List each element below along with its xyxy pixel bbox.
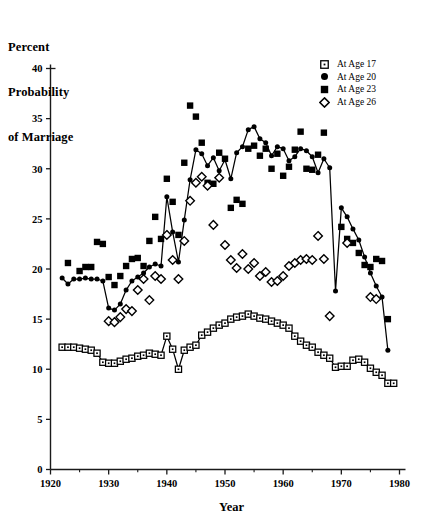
data-point-circle bbox=[333, 289, 338, 294]
data-point-circle bbox=[234, 150, 239, 155]
data-point-square bbox=[111, 282, 117, 288]
data-point-diamond bbox=[133, 286, 142, 295]
data-point-center-dot bbox=[90, 349, 92, 351]
data-point-center-dot bbox=[364, 361, 366, 363]
data-point-center-dot bbox=[149, 352, 151, 354]
legend-item-age-20: At Age 20 bbox=[316, 71, 376, 84]
data-point-circle bbox=[60, 276, 65, 281]
chart-legend: At Age 17 At Age 20 At Age 23 At Age 26 bbox=[316, 58, 376, 108]
data-point-square bbox=[152, 214, 158, 220]
data-point-center-dot bbox=[218, 324, 220, 326]
data-point-diamond bbox=[250, 259, 259, 268]
data-point-center-dot bbox=[242, 315, 244, 317]
data-point-center-dot bbox=[125, 358, 127, 360]
data-point-circle bbox=[281, 146, 286, 151]
data-point-circle bbox=[118, 302, 123, 307]
data-point-diamond bbox=[145, 296, 154, 305]
data-point-circle bbox=[316, 170, 321, 175]
data-point-circle bbox=[83, 276, 88, 281]
legend-label-age-20: At Age 20 bbox=[332, 71, 376, 84]
data-point-square bbox=[228, 205, 234, 211]
data-point-circle bbox=[95, 277, 100, 282]
data-point-center-dot bbox=[102, 361, 104, 363]
data-point-center-dot bbox=[213, 327, 215, 329]
data-point-square bbox=[76, 268, 82, 274]
data-point-square bbox=[129, 256, 135, 262]
data-point-center-dot bbox=[265, 318, 267, 320]
data-point-center-dot bbox=[329, 357, 331, 359]
data-point-square bbox=[65, 260, 71, 266]
data-point-square bbox=[309, 167, 315, 173]
data-point-center-dot bbox=[306, 344, 308, 346]
data-point-square bbox=[303, 166, 309, 172]
data-point-circle bbox=[65, 282, 70, 287]
data-point-square bbox=[367, 264, 373, 270]
data-point-circle bbox=[71, 277, 76, 282]
data-point-square bbox=[356, 250, 362, 256]
data-point-diamond bbox=[139, 275, 148, 284]
data-point-center-dot bbox=[207, 331, 209, 333]
data-point-circle bbox=[89, 277, 94, 282]
data-point-center-dot bbox=[236, 316, 238, 318]
x-tick-label: 1920 bbox=[40, 478, 61, 489]
data-point-center-dot bbox=[370, 367, 372, 369]
data-point-circle bbox=[327, 165, 332, 170]
data-point-center-dot bbox=[230, 318, 232, 320]
data-point-center-dot bbox=[375, 371, 377, 373]
legend-item-age-23: At Age 23 bbox=[316, 83, 376, 96]
data-point-square bbox=[297, 128, 303, 134]
data-point-center-dot bbox=[108, 362, 110, 364]
data-point-square bbox=[280, 173, 286, 179]
data-point-square bbox=[257, 153, 263, 159]
data-point-circle bbox=[246, 127, 251, 132]
data-point-square bbox=[268, 166, 274, 172]
data-point-center-dot bbox=[195, 344, 197, 346]
legend-label-age-17: At Age 17 bbox=[332, 58, 376, 71]
data-point-circle bbox=[257, 136, 262, 141]
data-point-circle bbox=[112, 308, 117, 313]
data-point-center-dot bbox=[160, 354, 162, 356]
data-point-center-dot bbox=[114, 362, 116, 364]
data-point-center-dot bbox=[189, 346, 191, 348]
data-point-circle bbox=[345, 214, 350, 219]
data-point-circle bbox=[153, 261, 158, 266]
data-point-center-dot bbox=[271, 320, 273, 322]
data-point-square bbox=[181, 160, 187, 166]
legend-label-age-26: At Age 26 bbox=[332, 96, 376, 109]
data-point-square bbox=[146, 238, 152, 244]
data-point-square bbox=[193, 113, 199, 119]
data-point-square bbox=[117, 273, 123, 279]
x-tick-label: 1940 bbox=[156, 478, 177, 489]
data-point-circle bbox=[298, 146, 303, 151]
data-point-circle bbox=[100, 279, 105, 284]
data-point-center-dot bbox=[73, 346, 75, 348]
data-point-circle bbox=[356, 237, 361, 242]
data-point-square bbox=[263, 146, 269, 152]
y-tick-label: 5 bbox=[37, 414, 42, 425]
data-point-center-dot bbox=[183, 349, 185, 351]
y-axis-title-line-1: Percent bbox=[8, 40, 73, 55]
data-point-center-dot bbox=[131, 357, 133, 359]
x-tick-label: 1960 bbox=[273, 478, 294, 489]
data-point-square bbox=[385, 316, 391, 322]
legend-item-age-26: At Age 26 bbox=[316, 96, 376, 109]
data-point-square bbox=[251, 142, 257, 148]
data-point-center-dot bbox=[282, 324, 284, 326]
data-point-center-dot bbox=[311, 346, 313, 348]
data-point-circle bbox=[77, 277, 82, 282]
data-point-square bbox=[169, 199, 175, 205]
data-point-diamond bbox=[232, 264, 241, 273]
y-tick-label: 0 bbox=[37, 464, 42, 475]
data-point-diamond bbox=[314, 232, 323, 241]
x-tick-label: 1970 bbox=[331, 478, 352, 489]
data-point-center-dot bbox=[300, 340, 302, 342]
data-point-diamond bbox=[320, 255, 329, 264]
data-point-diamond bbox=[227, 256, 236, 265]
x-axis-title-wrap: Year bbox=[0, 500, 427, 515]
data-point-center-dot bbox=[166, 335, 168, 337]
data-point-circle bbox=[252, 124, 257, 129]
data-point-center-dot bbox=[143, 354, 145, 356]
data-point-square bbox=[175, 232, 181, 238]
data-point-center-dot bbox=[358, 358, 360, 360]
data-point-circle bbox=[199, 151, 204, 156]
